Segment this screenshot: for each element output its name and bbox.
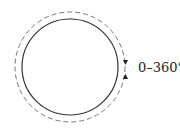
outer-dashed-circle	[15, 12, 125, 122]
down-arrow-icon	[123, 60, 128, 65]
angle-range-label: 0–360°	[138, 60, 180, 75]
inner-solid-circle	[22, 19, 118, 115]
